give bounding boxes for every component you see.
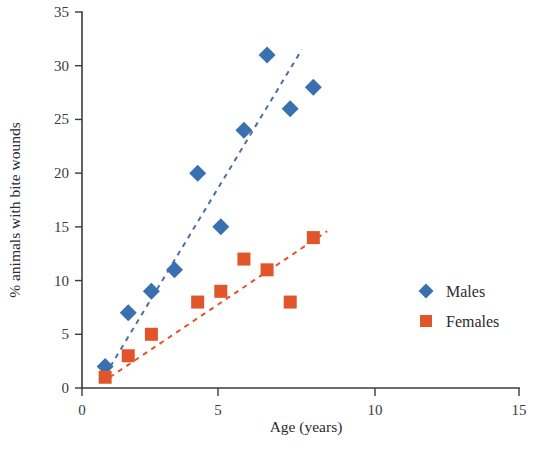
y-tick-label: 0 — [62, 380, 70, 396]
data-point-males — [166, 261, 183, 278]
data-point-females — [122, 349, 135, 362]
data-point-females — [99, 371, 112, 384]
x-tick-label: 0 — [78, 402, 86, 418]
data-point-females — [261, 263, 274, 276]
trendline-males — [105, 50, 302, 376]
legend-marker-diamond — [419, 284, 434, 299]
y-tick-label: 25 — [54, 111, 69, 127]
data-point-females — [191, 296, 204, 309]
x-tick-label: 5 — [214, 402, 222, 418]
x-tick-label: 15 — [512, 402, 527, 418]
chart-page: 05101520253035051015Age (years)% animals… — [0, 0, 545, 470]
data-point-males — [305, 79, 322, 96]
data-point-males — [143, 283, 160, 300]
x-tick-label: 10 — [368, 402, 383, 418]
data-point-males — [282, 100, 299, 117]
data-point-males — [212, 218, 229, 235]
legend-marker-square — [420, 315, 432, 327]
data-point-males — [259, 46, 276, 63]
y-tick-label: 10 — [54, 273, 69, 289]
data-point-males — [189, 165, 206, 182]
y-tick-label: 5 — [62, 326, 70, 342]
y-tick-label: 35 — [54, 4, 69, 20]
y-axis-title: % animals with bite wounds — [6, 122, 23, 298]
data-point-females — [214, 285, 227, 298]
data-point-females — [237, 253, 250, 266]
data-point-males — [120, 304, 137, 321]
x-axis-title: Age (years) — [270, 418, 343, 436]
data-point-males — [235, 122, 252, 139]
legend-label-females: Females — [446, 313, 499, 330]
legend-label-males: Males — [446, 283, 485, 300]
scatter-plot: 05101520253035051015Age (years)% animals… — [0, 0, 545, 470]
data-point-females — [284, 296, 297, 309]
data-point-females — [145, 328, 158, 341]
y-tick-label: 30 — [54, 58, 69, 74]
y-tick-label: 15 — [54, 219, 69, 235]
data-point-females — [307, 231, 320, 244]
y-tick-label: 20 — [54, 165, 69, 181]
